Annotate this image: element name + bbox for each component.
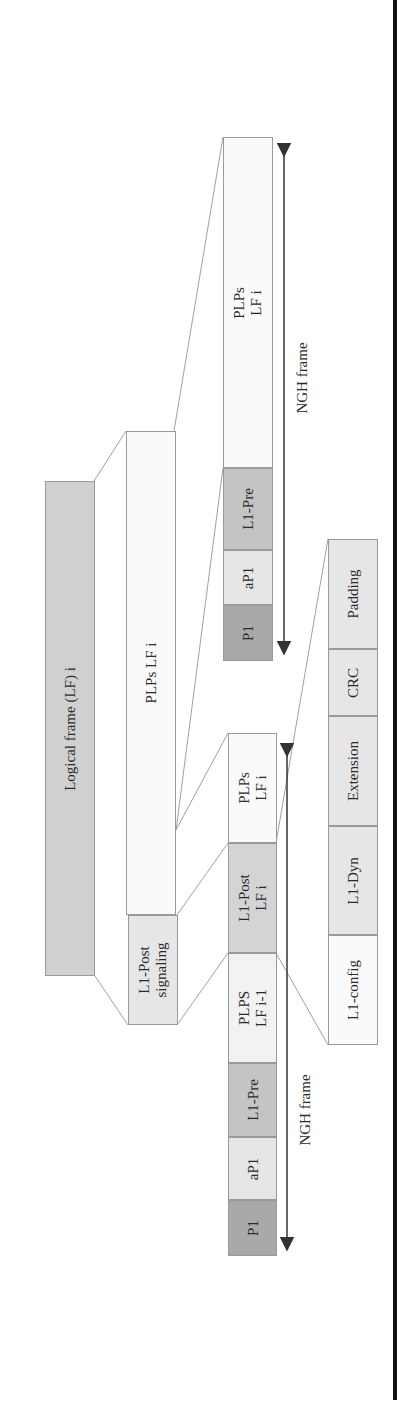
- page-edge-rule: [393, 0, 397, 1400]
- ngh-bottom-plps-prev-block: PLPS LF i-1: [228, 953, 277, 1063]
- l1-dyn-block: L1-Dyn: [328, 826, 378, 935]
- ngh-bottom-l1-post-label: L1-Post LF i: [236, 874, 270, 922]
- crc-block: CRC: [328, 649, 378, 716]
- l1-config-label: L1-config: [345, 960, 362, 1020]
- extension-block: Extension: [328, 716, 378, 826]
- ngh-bottom-plps-lf-i-block: PLPs LF i: [228, 733, 277, 843]
- plps-lf-i-block: PLPs LF i: [126, 431, 176, 915]
- ngh-frame-bottom-label: NGH frame: [297, 1074, 314, 1145]
- l1-post-signaling-block: L1-Post signaling: [128, 915, 178, 1025]
- ngh-bottom-plps-lf-i-label: PLPs LF i: [236, 772, 270, 804]
- ngh-top-p1-label: P1: [240, 625, 257, 641]
- ngh-bottom-p1-label: P1: [244, 1220, 261, 1236]
- ngh-bottom-ap1-label: aP1: [244, 1157, 261, 1180]
- l1-post-signaling-label: L1-Post signaling: [136, 943, 170, 998]
- ngh-bottom-p1-block: P1: [228, 1200, 277, 1256]
- ngh-top-l1-pre-label: L1-Pre: [240, 488, 257, 530]
- padding-block: Padding: [328, 539, 378, 649]
- l1-config-block: L1-config: [328, 935, 378, 1045]
- ngh-bottom-l1-pre-label: L1-Pre: [244, 1079, 261, 1121]
- diagram-canvas: Logical frame (LF) i PLPs LF i L1-Post s…: [0, 0, 405, 1413]
- ngh-top-plps-block: PLPs LF i: [223, 137, 273, 468]
- ngh-bottom-plps-prev-label: PLPS LF i-1: [236, 989, 270, 1027]
- ngh-bottom-ap1-block: aP1: [228, 1137, 277, 1200]
- ngh-top-p1-block: P1: [223, 605, 273, 661]
- logical-frame-block: Logical frame (LF) i: [45, 481, 95, 976]
- padding-label: Padding: [345, 569, 362, 618]
- logical-frame-label: Logical frame (LF) i: [62, 667, 79, 791]
- ngh-top-ap1-block: aP1: [223, 550, 273, 605]
- ngh-top-l1-pre-block: L1-Pre: [223, 468, 273, 550]
- l1-dyn-label: L1-Dyn: [345, 857, 362, 905]
- ngh-bottom-l1-post-block: L1-Post LF i: [228, 843, 277, 953]
- ngh-top-ap1-label: aP1: [240, 566, 257, 589]
- ngh-top-plps-label: PLPs LF i: [231, 287, 265, 319]
- ngh-bottom-l1-pre-block: L1-Pre: [228, 1063, 277, 1137]
- ngh-frame-top-label: NGH frame: [294, 342, 311, 413]
- plps-lf-i-label: PLPs LF i: [143, 643, 160, 704]
- extension-label: Extension: [345, 741, 362, 801]
- crc-label: CRC: [345, 667, 362, 697]
